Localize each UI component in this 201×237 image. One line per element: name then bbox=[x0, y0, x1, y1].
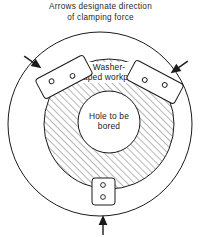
bolt-hole-icon bbox=[101, 195, 106, 200]
clamp-body bbox=[92, 178, 115, 205]
figure-caption: Arrows designate direction of clamping f… bbox=[0, 2, 201, 23]
arrow-icon-bottom bbox=[99, 215, 108, 235]
hole-label-line-1: Hole to be bbox=[89, 111, 129, 121]
hole-label-line-2: bored bbox=[98, 121, 121, 131]
clamping-diagram: Arrows designate direction of clamping f… bbox=[0, 0, 201, 237]
caption-line-1: Arrows designate direction bbox=[0, 2, 201, 13]
bolt-hole-icon bbox=[101, 183, 106, 188]
chuck-drawing: Washer- shaped workpiece Hole to be bore… bbox=[0, 0, 201, 237]
workpiece-label-line-1: Washer- bbox=[93, 62, 126, 72]
caption-line-2: of clamping force bbox=[0, 13, 201, 24]
clamp-jaw-bottom bbox=[92, 178, 115, 205]
